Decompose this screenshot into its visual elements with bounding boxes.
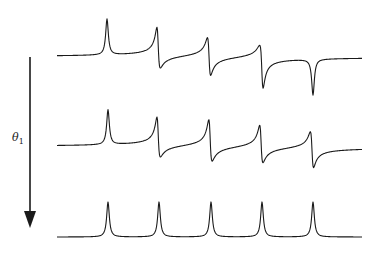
spectra-diagram: [0, 0, 375, 253]
theta-symbol: θ: [12, 131, 19, 144]
theta-arrow: [24, 57, 36, 228]
middle-trace: [57, 110, 362, 168]
theta-label: θ1: [12, 131, 24, 146]
top-trace: [57, 19, 362, 95]
arrow-head-icon: [24, 211, 36, 228]
bottom-trace: [57, 202, 362, 237]
theta-subscript: 1: [19, 137, 24, 146]
